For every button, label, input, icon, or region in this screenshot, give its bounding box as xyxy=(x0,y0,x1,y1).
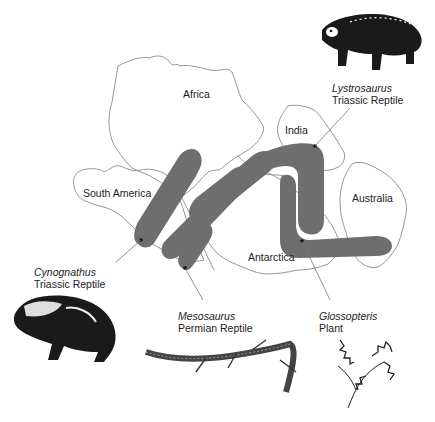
fossil-label-glossopteris: Glossopteris Plant xyxy=(319,310,377,334)
fossil-label-lystrosaurus: Lystrosaurus Triassic Reptile xyxy=(332,82,403,106)
continent-label-australia: Australia xyxy=(352,192,393,204)
species-name: Glossopteris xyxy=(319,310,377,322)
continent-label-india: India xyxy=(285,124,308,136)
continent-label-africa: Africa xyxy=(183,88,210,100)
lystrosaurus-leader xyxy=(315,108,350,146)
species-type: Permian Reptile xyxy=(178,322,253,334)
continent-label-south-america: South America xyxy=(83,187,151,199)
mesosaurus-illustration xyxy=(146,340,296,392)
lystrosaurus-range-b xyxy=(206,151,276,212)
fossil-label-mesosaurus: Mesosaurus Permian Reptile xyxy=(178,310,253,334)
gondwana-fossil-map: Africa South America India Australia Ant… xyxy=(0,0,435,422)
cynognathus-illustration xyxy=(14,296,116,362)
cynognathus-leader xyxy=(116,240,141,262)
continent-label-antarctica: Antarctica xyxy=(248,251,295,263)
species-type: Plant xyxy=(319,322,377,334)
species-type: Triassic Reptile xyxy=(332,94,403,106)
map-drawing xyxy=(0,0,435,422)
species-name: Cynognathus xyxy=(34,266,105,278)
mesosaurus-leader xyxy=(185,268,203,300)
species-name: Lystrosaurus xyxy=(332,82,403,94)
fossil-label-cynognathus: Cynognathus Triassic Reptile xyxy=(34,266,105,290)
glossopteris-range-hook xyxy=(280,175,392,258)
species-type: Triassic Reptile xyxy=(34,278,105,290)
glossopteris-illustration xyxy=(338,340,394,408)
species-name: Mesosaurus xyxy=(178,310,253,322)
lystrosaurus-illustration xyxy=(322,14,422,70)
